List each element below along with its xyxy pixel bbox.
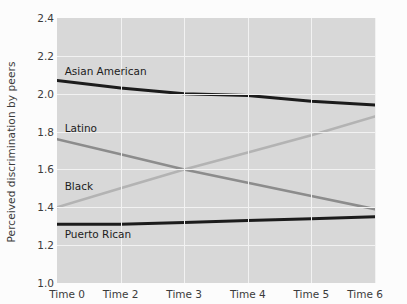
y-axis-tick-label: 1.8 xyxy=(8,126,54,138)
series-line xyxy=(57,217,375,225)
y-axis-tick-label: 1.2 xyxy=(8,239,54,251)
gridline-vertical xyxy=(121,18,122,283)
x-axis-tick-labels: Time 0Time 2Time 3Time 4Time 5Time 6 xyxy=(0,288,407,304)
x-axis-tick-label: Time 5 xyxy=(294,288,330,300)
gridline-horizontal xyxy=(57,56,375,57)
x-axis-tick-label: Time 4 xyxy=(230,288,266,300)
x-axis-tick-label: Time 0 xyxy=(49,288,85,300)
series-line xyxy=(57,116,375,207)
gridline-horizontal xyxy=(57,207,375,208)
gridline-horizontal xyxy=(57,94,375,95)
line-chart: Perceived discrimination by peers 1.01.2… xyxy=(0,0,407,304)
series-label: Puerto Rican xyxy=(65,228,132,240)
x-axis-tick-label: Time 6 xyxy=(347,288,383,300)
series-label: Latino xyxy=(65,122,97,134)
y-axis-tick-label: 1.6 xyxy=(8,163,54,175)
gridline-horizontal xyxy=(57,132,375,133)
gridline-vertical xyxy=(248,18,249,283)
plot-area xyxy=(57,18,375,283)
x-axis-tick-label: Time 2 xyxy=(103,288,139,300)
gridline-vertical xyxy=(311,18,312,283)
gridline-vertical xyxy=(184,18,185,283)
y-axis-tick-label: 2.0 xyxy=(8,88,54,100)
series-label: Black xyxy=(65,180,93,192)
y-axis-tick-labels: 1.01.21.41.61.82.02.22.4 xyxy=(4,0,54,304)
gridline-horizontal xyxy=(57,169,375,170)
y-axis-tick-label: 2.2 xyxy=(8,50,54,62)
series-label: Asian American xyxy=(65,65,147,77)
x-axis-tick-label: Time 3 xyxy=(166,288,202,300)
y-axis-tick-label: 1.4 xyxy=(8,201,54,213)
gridline-vertical xyxy=(375,18,376,283)
series-lines xyxy=(57,18,375,283)
y-axis-tick-label: 2.4 xyxy=(8,12,54,24)
gridline-horizontal xyxy=(57,245,375,246)
series-line xyxy=(57,139,375,209)
